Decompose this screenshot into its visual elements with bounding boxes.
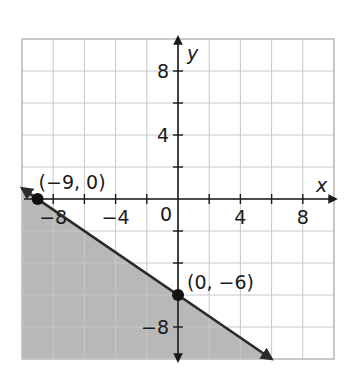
y-tick-label: 8 <box>157 60 169 82</box>
coordinate-plane: −8−44884−8 (−9, 0)(0, −6) x y 0 <box>0 0 350 379</box>
x-tick-label: 4 <box>234 206 246 228</box>
x-tick-label: −4 <box>102 206 130 228</box>
point-label: (0, −6) <box>187 271 254 293</box>
y-tick-label: −8 <box>141 316 169 338</box>
point-marker <box>32 193 44 205</box>
point-marker <box>172 289 184 301</box>
x-axis-label: x <box>315 174 328 196</box>
x-tick-label: 8 <box>297 206 309 228</box>
origin-label: 0 <box>160 203 172 225</box>
point-label: (−9, 0) <box>39 171 106 193</box>
y-axis-label: y <box>186 42 199 64</box>
y-tick-label: 4 <box>157 124 169 146</box>
